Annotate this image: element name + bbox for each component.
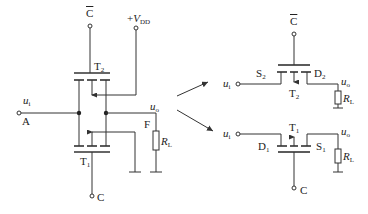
input-terminal [236,132,240,136]
rl-sub: L [350,156,354,164]
d2-label: D2 [314,68,325,81]
right-bottom-load-label: RL [343,151,354,164]
ui-sub: i [229,83,231,91]
s1-label: S1 [316,141,326,154]
vdd-sub: DD [140,18,150,26]
input-terminal [236,82,240,86]
rl-sub: L [168,141,172,149]
ui-sub: i [29,100,31,108]
vdd-base: V [133,12,140,24]
right-top-load-label: RL [343,93,354,106]
rl-base: R [343,150,350,162]
input-terminal [17,111,21,115]
left-transmission-gate [17,24,162,198]
right-bottom-output-label: uo [341,126,350,139]
d2-sub: 2 [322,73,326,81]
s2-sub: 2 [262,73,266,81]
s1-sub: 1 [322,146,326,154]
vdd-terminal [134,26,138,30]
right-bottom-input-label: ui [223,128,230,141]
input-label: ui [23,95,30,108]
right-bottom-c-label: C [300,185,307,196]
uo-sub: o [156,106,160,114]
c-terminal [292,186,296,190]
rl-sub: L [350,98,354,106]
t1-base: T [289,121,296,133]
d1-base: D [258,140,266,152]
t2-sub: 2 [101,66,105,74]
t2-label: T2 [94,61,104,74]
ui-sub: i [229,133,231,141]
junction-dot-a [77,111,81,115]
rl-base: R [343,92,350,104]
right-top-cbar-label: C [290,16,297,27]
vdd-label: +VDD [127,13,150,26]
d1-sub: 1 [266,146,270,154]
t1-sub: 1 [296,127,300,135]
node-f-label: F [144,119,150,130]
t1-sub: 1 [87,161,91,169]
right-top-output-label: uo [341,76,350,89]
uo-sub: o [347,81,351,89]
t1-base: T [80,155,87,167]
cbar-label: C [86,8,93,19]
load-resistor-icon [153,131,159,150]
arrow-up-right-icon [177,82,208,96]
d2-base: D [314,67,322,79]
node-a-label: A [22,116,30,127]
schematic-lines [0,0,368,214]
output-label: uo [150,101,159,114]
rl-base: R [161,135,168,147]
right-bottom-t1-label: T1 [289,122,299,135]
circuit-diagram: C +VDD T2 ui A uo F RL T1 C C S2 D2 ui T… [0,0,368,214]
uo-sub: o [347,131,351,139]
t2-base: T [94,60,101,72]
c-terminal [90,194,94,198]
load-resistor-icon [335,91,341,104]
load-resistor-icon [335,149,341,163]
load-label: RL [161,136,172,149]
t2-sub: 2 [296,93,300,101]
t2-base: T [289,87,296,99]
right-top-t2-label: T2 [289,88,299,101]
cbar-terminal [88,24,92,28]
right-top-input-label: ui [223,78,230,91]
right-bottom-circuit [236,132,343,190]
c-label: C [97,192,104,203]
t1-label: T1 [80,156,90,169]
arrow-down-right-icon [177,110,213,131]
s2-label: S2 [256,68,266,81]
cbar-terminal [292,32,296,36]
d1-label: D1 [258,141,269,154]
